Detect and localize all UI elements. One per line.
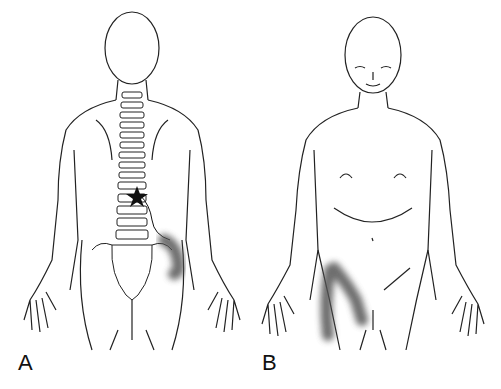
pain-shading-a	[164, 240, 179, 274]
figure-a-posterior	[24, 12, 240, 350]
pain-shading-b	[326, 268, 362, 335]
figure-b-anterior	[262, 17, 484, 350]
panel-label-b: B	[262, 350, 277, 376]
dermatome-pain-figure: A B	[0, 0, 501, 389]
illustration	[0, 0, 501, 389]
panel-label-a: A	[18, 350, 33, 376]
